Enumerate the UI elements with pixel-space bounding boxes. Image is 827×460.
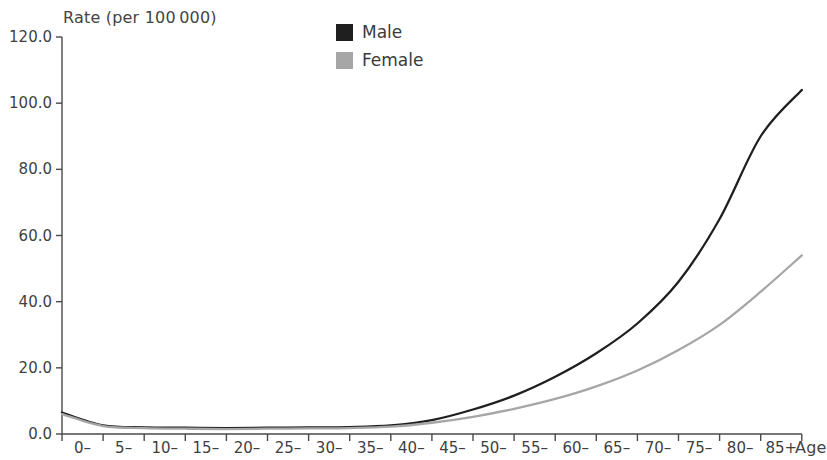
series-line-male bbox=[62, 90, 802, 428]
x-axis-tick-label: 30– bbox=[316, 439, 343, 457]
series-line-female bbox=[62, 255, 802, 429]
x-axis-tick-label: 25– bbox=[275, 439, 302, 457]
y-axis-tick-label: 40.0 bbox=[0, 293, 52, 311]
x-axis-tick-label: 50– bbox=[480, 439, 507, 457]
x-axis-tick-label: 40– bbox=[398, 439, 425, 457]
x-axis-tick-label: 45– bbox=[439, 439, 466, 457]
x-axis-tick-label: 0– bbox=[74, 439, 91, 457]
x-axis-tick-label: 75– bbox=[686, 439, 713, 457]
x-axis-tick-label: 65– bbox=[604, 439, 631, 457]
y-axis-tick-label: 120.0 bbox=[0, 28, 52, 46]
x-axis-tick-label: 35– bbox=[357, 439, 384, 457]
x-axis-tick-label: 85+ bbox=[765, 439, 797, 457]
x-axis-tick-label: 5– bbox=[115, 439, 132, 457]
x-axis-tick-label: 60– bbox=[562, 439, 589, 457]
y-axis-tick-label: 80.0 bbox=[0, 160, 52, 178]
x-axis-tick-label: 70– bbox=[645, 439, 672, 457]
y-axis-tick-label: 60.0 bbox=[0, 227, 52, 245]
x-axis-tick-label: 80– bbox=[727, 439, 754, 457]
x-axis-tick-label: 10– bbox=[151, 439, 178, 457]
y-axis-tick-label: 0.0 bbox=[0, 425, 52, 443]
y-axis-tick-label: 100.0 bbox=[0, 94, 52, 112]
x-axis-tick-label: 55– bbox=[521, 439, 548, 457]
x-axis-tick-label: 15– bbox=[193, 439, 220, 457]
x-axis-tick-label: 20– bbox=[234, 439, 261, 457]
y-axis-tick-label: 20.0 bbox=[0, 359, 52, 377]
